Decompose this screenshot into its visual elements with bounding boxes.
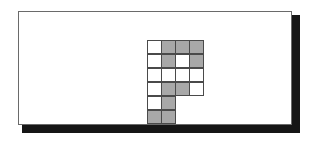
grid-cell-r1-c1[interactable] [147, 40, 162, 54]
grid-row [147, 110, 209, 124]
grid-row [147, 54, 209, 68]
grid-cell-r1-c2[interactable] [161, 40, 176, 54]
grid-cell-r4-c1[interactable] [147, 82, 162, 96]
grid-cell-r3-c4[interactable] [189, 68, 204, 82]
grid-cell-r6-c2[interactable] [161, 110, 176, 124]
grid-cell-r6-c1[interactable] [147, 110, 162, 124]
polyomino-grid [147, 40, 209, 124]
grid-cell-r3-c3[interactable] [175, 68, 190, 82]
grid-row [147, 68, 209, 82]
grid-cell-r4-c3[interactable] [175, 82, 190, 96]
grid-row [147, 96, 209, 110]
grid-cell-r1-c3[interactable] [175, 40, 190, 54]
grid-cell-r2-c3[interactable] [175, 54, 190, 68]
grid-cell-r2-c4[interactable] [189, 54, 204, 68]
grid-cell-r1-c4[interactable] [189, 40, 204, 54]
grid-cell-r4-c4[interactable] [189, 82, 204, 96]
grid-cell-r3-c1[interactable] [147, 68, 162, 82]
grid-cell-r6-c4 [190, 110, 205, 124]
figure-canvas [0, 0, 320, 145]
grid-cell-r2-c1[interactable] [147, 54, 162, 68]
grid-cell-r6-c3 [175, 110, 190, 124]
grid-cell-r5-c1[interactable] [147, 96, 162, 110]
grid-cell-r4-c2[interactable] [161, 82, 176, 96]
grid-row [147, 40, 209, 54]
grid-cell-r5-c4 [190, 96, 205, 110]
grid-cell-r3-c2[interactable] [161, 68, 176, 82]
figure-panel [18, 11, 292, 125]
grid-cell-r5-c3 [175, 96, 190, 110]
grid-cell-r5-c2[interactable] [161, 96, 176, 110]
grid-cell-r2-c2[interactable] [161, 54, 176, 68]
grid-row [147, 82, 209, 96]
